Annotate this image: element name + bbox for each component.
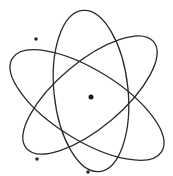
orbits: [0, 7, 173, 176]
electron-icon: [35, 157, 39, 161]
orbit-descending-icon: [0, 29, 173, 176]
electrons: [34, 37, 90, 174]
orbit-vertical-icon: [46, 7, 137, 176]
electron-icon: [34, 37, 38, 41]
atom-icon: [0, 0, 173, 176]
orbit-ascending-icon: [5, 16, 173, 173]
electron-icon: [86, 170, 90, 174]
nucleus-icon: [89, 95, 94, 100]
